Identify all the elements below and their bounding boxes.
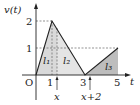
origin-label: O bbox=[25, 77, 33, 88]
marker-x-label: x bbox=[54, 91, 60, 102]
marker-x2-label: x+2 bbox=[81, 91, 101, 102]
y-tick-2: 2 bbox=[26, 16, 32, 27]
y-axis-arrow-icon bbox=[34, 3, 38, 9]
y-axis-label: v(t) bbox=[4, 4, 22, 15]
x-tick-5: 5 bbox=[114, 77, 120, 88]
marker-x-arrow-icon bbox=[56, 76, 59, 80]
region-label-l2: l₂ bbox=[63, 55, 70, 66]
x-axis-label: t bbox=[130, 76, 135, 87]
velocity-diagram: v(t) t O 2 1 1 3 5 l₁ l₂ l₃ x x+2 bbox=[0, 0, 140, 105]
marker-x2-arrow-icon bbox=[89, 76, 92, 80]
x-tick-1: 1 bbox=[47, 77, 53, 88]
x-tick-3: 3 bbox=[80, 77, 86, 88]
region-label-l3: l₃ bbox=[105, 61, 112, 72]
region-label-l1: l₁ bbox=[43, 55, 50, 66]
y-tick-1: 1 bbox=[26, 43, 32, 54]
